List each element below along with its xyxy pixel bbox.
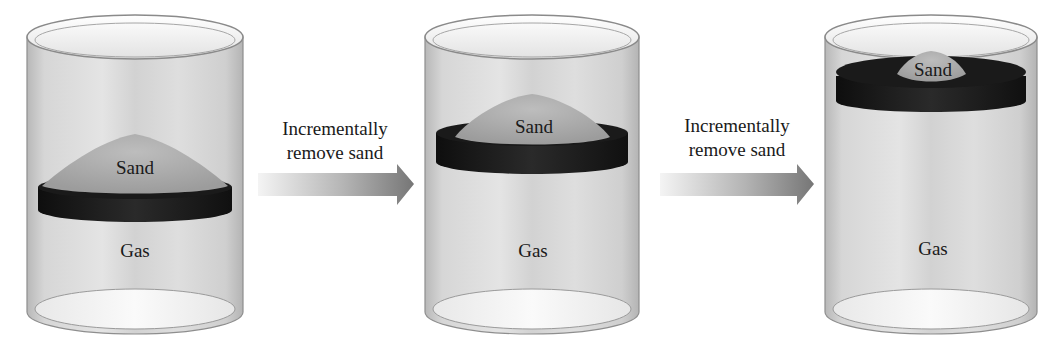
gas-label: Gas xyxy=(918,238,948,260)
sand-label: Sand xyxy=(914,59,952,81)
transition-label-2: Incrementally remove sand xyxy=(684,114,790,162)
cylinder-stage-2 xyxy=(425,15,639,334)
sand-label: Sand xyxy=(116,157,154,179)
diagram-graphics xyxy=(0,0,1063,364)
diagram-canvas: Sand Gas Incrementally remove sand Sand … xyxy=(0,0,1063,364)
gas-label: Gas xyxy=(120,240,150,262)
arrow-right-icon xyxy=(660,164,814,205)
transition-label-line2: remove sand xyxy=(282,141,388,165)
arrow-right-icon xyxy=(258,164,414,205)
transition-label-line2: remove sand xyxy=(684,138,790,162)
transition-label-line1: Incrementally xyxy=(684,114,790,138)
sand-label: Sand xyxy=(515,116,553,138)
transition-label-1: Incrementally remove sand xyxy=(282,117,388,165)
transition-label-line1: Incrementally xyxy=(282,117,388,141)
gas-label: Gas xyxy=(518,240,548,262)
